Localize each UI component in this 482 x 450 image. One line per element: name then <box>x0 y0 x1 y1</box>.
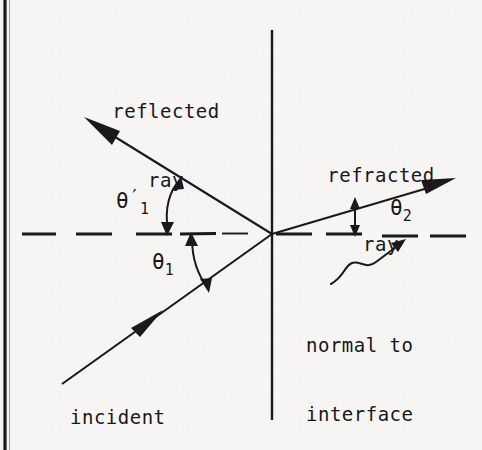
theta-2-subscript: 2 <box>403 207 412 225</box>
reflected-ray-label-line1: reflected <box>66 100 266 123</box>
theta-1-subscript: 1 <box>165 261 174 279</box>
incident-ray-arrowhead <box>131 310 163 337</box>
theta-2-glyph: θ <box>390 196 403 220</box>
reflected-ray-label-line2: ray <box>66 169 266 192</box>
incident-ray-label-line1: incident <box>70 406 250 429</box>
normal-to-interface-label: normal to interface <box>306 288 482 450</box>
theta-1-prime-glyph: θ <box>116 189 129 213</box>
refracted-ray-label-line2: ray <box>298 233 464 256</box>
reflected-ray-label: reflected ray <box>66 54 266 238</box>
refracted-ray-label-line1: refracted <box>298 164 464 187</box>
theta1-arc <box>185 232 212 293</box>
theta-1-symbol: θ1 <box>152 252 174 281</box>
incident-ray-label: incident ray <box>70 360 250 450</box>
theta-1-prime-symbol: θ′1 <box>116 186 149 220</box>
normal-to-interface-line2: interface <box>306 403 482 426</box>
theta-1-prime-subscript: 1 <box>140 200 149 218</box>
theta-2-symbol: θ2 <box>390 198 412 227</box>
theta-1-glyph: θ <box>152 250 165 274</box>
theta-1-prime-mark: ′ <box>129 185 140 207</box>
figure-canvas: reflected ray refracted ray incident ray… <box>0 0 482 450</box>
refracted-ray-label: refracted ray <box>298 118 464 302</box>
normal-to-interface-line1: normal to <box>306 334 482 357</box>
